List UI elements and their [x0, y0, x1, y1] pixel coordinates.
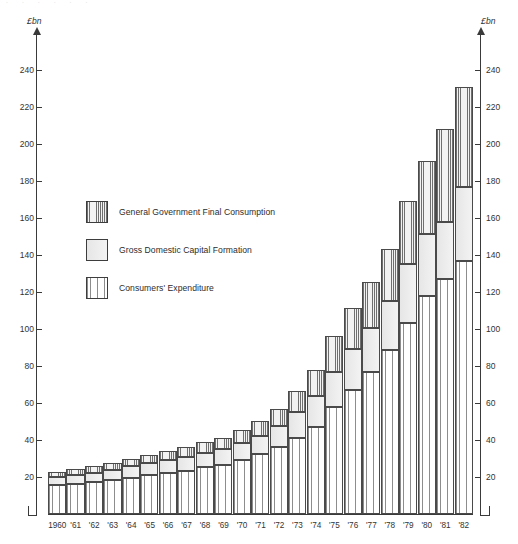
- axis-foot-left: [28, 515, 37, 516]
- y-tick-label-right-140: 140: [486, 250, 510, 260]
- bar-segment-consumers-1965[interactable]: [140, 475, 158, 514]
- bar-1963[interactable]: [103, 34, 121, 515]
- bar-1960[interactable]: [48, 34, 66, 515]
- bar-segment-consumers-1961[interactable]: [66, 484, 84, 514]
- bar-segment-capital-1961[interactable]: [66, 475, 84, 484]
- bar-1964[interactable]: [122, 34, 140, 515]
- bar-segment-government-1973[interactable]: [288, 391, 306, 411]
- bar-1982[interactable]: [455, 34, 473, 515]
- y-tick-left-120: [37, 292, 42, 293]
- bar-segment-capital-1969[interactable]: [214, 449, 232, 464]
- bar-segment-government-1962[interactable]: [85, 466, 103, 472]
- bar-segment-government-1963[interactable]: [103, 463, 121, 470]
- bar-segment-consumers-1981[interactable]: [436, 279, 454, 514]
- bar-segment-government-1979[interactable]: [399, 201, 417, 264]
- y-tick-right-240: [475, 70, 480, 71]
- bar-segment-capital-1963[interactable]: [103, 470, 121, 479]
- bar-segment-capital-1960[interactable]: [48, 477, 66, 485]
- bar-segment-consumers-1980[interactable]: [418, 296, 436, 514]
- bar-segment-consumers-1968[interactable]: [196, 467, 214, 514]
- bar-segment-government-1966[interactable]: [159, 451, 177, 460]
- bar-1979[interactable]: [399, 34, 417, 515]
- bar-segment-government-1982[interactable]: [455, 87, 473, 187]
- bar-segment-government-1981[interactable]: [436, 129, 454, 222]
- bar-segment-capital-1976[interactable]: [344, 349, 362, 390]
- bar-1961[interactable]: [66, 34, 84, 515]
- bar-segment-capital-1967[interactable]: [177, 457, 195, 471]
- bar-segment-government-1974[interactable]: [307, 370, 325, 396]
- bar-1962[interactable]: [85, 34, 103, 515]
- bar-segment-consumers-1977[interactable]: [362, 372, 380, 514]
- bar-1980[interactable]: [418, 34, 436, 515]
- bar-segment-consumers-1976[interactable]: [344, 390, 362, 514]
- bar-1971[interactable]: [251, 34, 269, 515]
- bar-1977[interactable]: [362, 34, 380, 515]
- bar-segment-government-1964[interactable]: [122, 459, 140, 467]
- bar-segment-capital-1971[interactable]: [251, 436, 269, 455]
- bar-segment-consumers-1970[interactable]: [233, 460, 251, 514]
- bar-1976[interactable]: [344, 34, 362, 515]
- bar-1965[interactable]: [140, 34, 158, 515]
- bar-segment-government-1965[interactable]: [140, 455, 158, 464]
- bar-segment-capital-1975[interactable]: [325, 372, 343, 406]
- bar-segment-government-1976[interactable]: [344, 308, 362, 349]
- bar-segment-consumers-1964[interactable]: [122, 478, 140, 514]
- bar-1968[interactable]: [196, 34, 214, 515]
- bar-segment-consumers-1972[interactable]: [270, 447, 288, 514]
- bar-segment-capital-1965[interactable]: [140, 463, 158, 475]
- bar-segment-consumers-1979[interactable]: [399, 323, 417, 514]
- bar-1967[interactable]: [177, 34, 195, 515]
- bar-1974[interactable]: [307, 34, 325, 515]
- bar-segment-capital-1981[interactable]: [436, 222, 454, 279]
- bar-segment-government-1970[interactable]: [233, 430, 251, 443]
- bar-segment-government-1975[interactable]: [325, 336, 343, 372]
- bar-segment-consumers-1963[interactable]: [103, 480, 121, 514]
- bar-segment-consumers-1962[interactable]: [85, 482, 103, 514]
- bar-segment-consumers-1960[interactable]: [48, 485, 66, 514]
- bar-segment-government-1969[interactable]: [214, 438, 232, 450]
- bar-1966[interactable]: [159, 34, 177, 515]
- bar-segment-government-1980[interactable]: [418, 161, 436, 234]
- bar-segment-capital-1968[interactable]: [196, 453, 214, 468]
- bar-1981[interactable]: [436, 34, 454, 515]
- y-tick-label-right-100: 100: [486, 324, 510, 334]
- bar-segment-capital-1977[interactable]: [362, 328, 380, 372]
- bar-segment-government-1968[interactable]: [196, 442, 214, 453]
- bar-segment-capital-1982[interactable]: [455, 187, 473, 261]
- bar-segment-capital-1964[interactable]: [122, 466, 140, 477]
- bar-segment-capital-1979[interactable]: [399, 264, 417, 322]
- bar-segment-capital-1973[interactable]: [288, 412, 306, 438]
- bar-segment-government-1961[interactable]: [66, 469, 84, 475]
- bar-segment-government-1978[interactable]: [381, 249, 399, 301]
- bar-segment-consumers-1978[interactable]: [381, 350, 399, 514]
- bar-segment-capital-1962[interactable]: [85, 473, 103, 482]
- y-tick-label-right-60: 60: [486, 398, 510, 408]
- bar-1972[interactable]: [270, 34, 288, 515]
- y-tick-left-20: [37, 477, 42, 478]
- bar-segment-consumers-1966[interactable]: [159, 473, 177, 514]
- bar-segment-government-1977[interactable]: [362, 282, 380, 328]
- bar-segment-consumers-1967[interactable]: [177, 471, 195, 514]
- bar-segment-government-1972[interactable]: [270, 409, 288, 427]
- bar-segment-government-1967[interactable]: [177, 447, 195, 457]
- bar-segment-capital-1966[interactable]: [159, 460, 177, 473]
- bar-segment-capital-1970[interactable]: [233, 443, 251, 460]
- bar-segment-consumers-1973[interactable]: [288, 438, 306, 514]
- bar-segment-consumers-1975[interactable]: [325, 407, 343, 514]
- bar-segment-consumers-1969[interactable]: [214, 465, 232, 514]
- bar-segment-capital-1978[interactable]: [381, 301, 399, 350]
- bar-segment-capital-1972[interactable]: [270, 426, 288, 447]
- bar-segment-consumers-1971[interactable]: [251, 454, 269, 514]
- bar-segment-government-1960[interactable]: [48, 472, 66, 478]
- bar-1978[interactable]: [381, 34, 399, 515]
- bar-segment-consumers-1974[interactable]: [307, 427, 325, 515]
- bar-segment-government-1971[interactable]: [251, 421, 269, 436]
- y-tick-label-left-100: 100: [10, 324, 34, 334]
- bar-segment-capital-1974[interactable]: [307, 396, 325, 426]
- bar-segment-consumers-1982[interactable]: [455, 261, 473, 514]
- bar-1970[interactable]: [233, 34, 251, 515]
- bar-1969[interactable]: [214, 34, 232, 515]
- bar-segment-capital-1980[interactable]: [418, 234, 436, 296]
- bar-1975[interactable]: [325, 34, 343, 515]
- bar-1973[interactable]: [288, 34, 306, 515]
